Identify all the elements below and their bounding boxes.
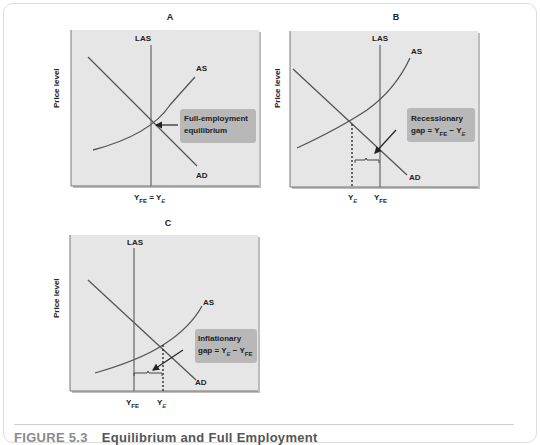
plot-area	[70, 235, 258, 391]
ad-label: AD	[195, 378, 207, 387]
x-tick-yfe: YFE	[374, 193, 387, 204]
figure-number: FIGURE 5.3	[14, 430, 88, 445]
panel-c-chart	[0, 220, 280, 420]
x-tick-ye: YE	[157, 398, 166, 409]
panel-b-chart	[270, 0, 540, 220]
figure-caption: FIGURE 5.3Equilibrium and Full Employmen…	[14, 430, 318, 445]
as-label: AS	[196, 64, 207, 73]
y-axis-label: Price level	[52, 278, 61, 318]
figure-title: Equilibrium and Full Employment	[102, 430, 318, 445]
plot-area	[71, 30, 259, 186]
panel-a-chart	[0, 0, 270, 220]
callout-text: Recessionary gap = YFE − YE	[411, 113, 466, 140]
y-axis-label: Price level	[52, 68, 61, 108]
callout-text: Inflationary gap = YE − YFE	[198, 333, 253, 360]
x-tick-yfe-ye: YFE = YE	[134, 193, 165, 204]
ad-label: AD	[196, 171, 208, 180]
as-label: AS	[411, 47, 422, 56]
las-label: LAS	[372, 34, 388, 43]
las-label: LAS	[127, 238, 143, 247]
as-label: AS	[203, 298, 214, 307]
caption-divider	[14, 424, 514, 425]
x-tick-ye: YE	[348, 193, 357, 204]
las-label: LAS	[135, 34, 151, 43]
ad-label: AD	[409, 173, 421, 182]
callout-text: Full-employment equilibrium	[184, 113, 248, 137]
x-tick-yfe: YFE	[126, 398, 139, 409]
y-axis-label: Price level	[273, 68, 282, 108]
